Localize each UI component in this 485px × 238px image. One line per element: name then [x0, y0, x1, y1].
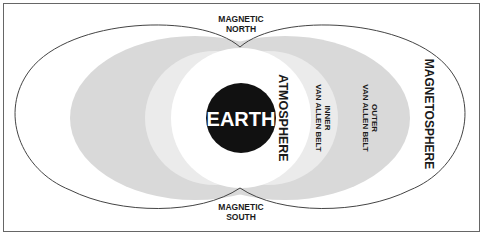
earth-label: EARTH	[207, 108, 276, 130]
magnetic-south-label-line2: SOUTH	[226, 212, 256, 222]
magnetic-south-label-line1: MAGNETIC	[218, 202, 263, 212]
outer-belt-label-line2: VAN ALLEN BELT	[361, 84, 370, 152]
inner-belt-label-line1: INNER	[323, 106, 332, 131]
magnetic-north-label-line2: NORTH	[226, 24, 256, 34]
outer-belt-label-line1: OUTER	[370, 104, 379, 132]
magnetosphere-diagram: EARTH MAGNETIC NORTH MAGNETIC SOUTH ATMO…	[0, 0, 485, 238]
inner-belt-label-line2: VAN ALLEN BELT	[314, 84, 323, 152]
atmosphere-label: ATMOSPHERE	[276, 74, 290, 161]
magnetosphere-label: MAGNETOSPHERE	[422, 59, 436, 169]
magnetic-north-label-line1: MAGNETIC	[218, 14, 263, 24]
